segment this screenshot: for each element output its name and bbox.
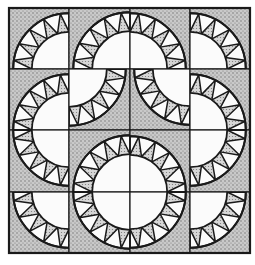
quilt-cell <box>130 69 190 130</box>
quilt-cell <box>69 130 130 192</box>
quilt-cell <box>9 130 69 192</box>
quilt-cell <box>69 8 130 69</box>
quilt-cell <box>190 8 250 69</box>
quilt-cell <box>69 192 130 253</box>
quilt-cell <box>190 130 250 192</box>
quilt-cell <box>130 8 190 69</box>
quilt-cell <box>9 8 69 69</box>
quilt-cell <box>190 192 250 253</box>
quilt-cell <box>130 130 190 192</box>
quilt-cell <box>130 192 190 253</box>
quilt-cell <box>9 69 69 130</box>
quilt-cells <box>9 8 250 253</box>
quilt-cell <box>190 69 250 130</box>
quilt-cell <box>69 69 130 130</box>
quilt-cell <box>9 192 69 253</box>
quilt-pattern <box>0 0 255 265</box>
